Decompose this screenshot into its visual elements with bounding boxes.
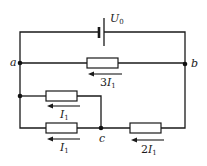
resistor-3I1 — [87, 58, 118, 68]
node-a-label: a — [10, 56, 17, 69]
node-c — [99, 126, 104, 131]
wire-resistor-to-b-bottom — [161, 64, 185, 128]
node-c-label: c — [99, 132, 105, 145]
branch-lower-parallel: I1 — [46, 123, 130, 155]
current-label-upper-I1: I1 — [59, 108, 69, 122]
current-label-3I1: 3I1 — [100, 76, 116, 90]
resistor-lower-I1 — [46, 123, 77, 133]
circuit-diagram: U0 3I1 a b I1 I1 c 2I — [0, 0, 207, 166]
branch-cb: 2I1 — [130, 64, 185, 157]
arrowhead-icon — [47, 137, 53, 142]
resistor-2I1 — [130, 123, 161, 133]
arrowhead-icon — [47, 104, 53, 109]
current-label-2I1: 2I1 — [141, 143, 157, 157]
branch-ab: 3I1 — [20, 58, 185, 90]
arrowhead-icon — [131, 138, 137, 143]
battery-label: U0 — [110, 12, 124, 26]
current-label-lower-I1: I1 — [59, 141, 69, 155]
arrowhead-icon — [88, 72, 94, 77]
node-b-label: b — [191, 57, 198, 70]
battery-loop: U0 — [20, 12, 185, 64]
resistor-upper-I1 — [46, 91, 77, 101]
wire-upper-resistor-to-c — [77, 96, 101, 128]
